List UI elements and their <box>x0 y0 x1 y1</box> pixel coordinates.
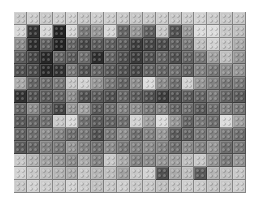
stud-icon <box>21 14 24 17</box>
stud-icon <box>227 130 230 133</box>
stud-icon <box>80 182 83 185</box>
brick-cell <box>207 141 220 154</box>
stud-icon <box>188 97 191 100</box>
stud-icon <box>124 66 127 69</box>
stud-icon <box>201 130 204 133</box>
stud-icon <box>93 79 96 82</box>
stud-icon <box>163 19 166 22</box>
stud-icon <box>235 79 238 82</box>
brick-cell <box>40 115 53 128</box>
stud-icon <box>111 84 114 87</box>
stud-icon <box>158 130 161 133</box>
stud-icon <box>214 187 217 190</box>
stud-icon <box>132 117 135 120</box>
stud-icon <box>222 84 225 87</box>
stud-icon <box>16 135 19 138</box>
brick-cell <box>220 77 233 90</box>
stud-icon <box>106 169 109 172</box>
stud-icon <box>209 19 212 22</box>
stud-icon <box>209 130 212 133</box>
stud-icon <box>72 58 75 61</box>
stud-icon <box>98 14 101 17</box>
stud-icon <box>85 45 88 48</box>
stud-icon <box>55 182 58 185</box>
stud-icon <box>16 169 19 172</box>
brick-cell <box>40 141 53 154</box>
stud-icon <box>227 40 230 43</box>
brick-cell <box>207 64 220 77</box>
brick-cell <box>27 115 40 128</box>
stud-icon <box>214 32 217 35</box>
stud-icon <box>98 182 101 185</box>
brick-cell <box>66 180 79 193</box>
brick-cell <box>156 25 169 38</box>
stud-icon <box>227 84 230 87</box>
stud-icon <box>176 187 179 190</box>
stud-icon <box>227 19 230 22</box>
brick-cell <box>207 25 220 38</box>
stud-icon <box>119 117 122 120</box>
stud-icon <box>68 71 71 74</box>
stud-icon <box>68 169 71 172</box>
stud-icon <box>93 105 96 108</box>
stud-icon <box>47 97 50 100</box>
brick-cell <box>53 154 66 167</box>
stud-icon <box>163 182 166 185</box>
stud-icon <box>158 105 161 108</box>
stud-icon <box>209 122 212 125</box>
stud-icon <box>184 156 187 159</box>
stud-icon <box>227 14 230 17</box>
stud-icon <box>21 117 24 120</box>
stud-icon <box>184 53 187 56</box>
stud-icon <box>137 109 140 112</box>
stud-icon <box>176 45 179 48</box>
stud-icon <box>119 84 122 87</box>
stud-icon <box>176 97 179 100</box>
stud-icon <box>93 161 96 164</box>
stud-icon <box>93 109 96 112</box>
stud-icon <box>29 135 32 138</box>
stud-icon <box>29 161 32 164</box>
stud-icon <box>235 135 238 138</box>
stud-icon <box>188 187 191 190</box>
stud-icon <box>29 79 32 82</box>
stud-icon <box>29 92 32 95</box>
stud-icon <box>80 156 83 159</box>
stud-icon <box>222 187 225 190</box>
stud-icon <box>171 45 174 48</box>
stud-icon <box>158 187 161 190</box>
stud-icon <box>68 109 71 112</box>
stud-icon <box>42 109 45 112</box>
stud-icon <box>42 32 45 35</box>
brick-cell <box>14 103 27 116</box>
brick-cell <box>14 77 27 90</box>
stud-icon <box>119 58 122 61</box>
stud-icon <box>85 105 88 108</box>
stud-icon <box>227 169 230 172</box>
stud-icon <box>201 135 204 138</box>
stud-icon <box>119 32 122 35</box>
stud-icon <box>214 109 217 112</box>
stud-icon <box>201 92 204 95</box>
stud-icon <box>171 156 174 159</box>
stud-icon <box>171 58 174 61</box>
stud-icon <box>98 156 101 159</box>
stud-icon <box>21 79 24 82</box>
stud-icon <box>111 14 114 17</box>
stud-icon <box>119 19 122 22</box>
stud-icon <box>222 182 225 185</box>
brick-cell <box>14 64 27 77</box>
brick-cell <box>182 64 195 77</box>
stud-icon <box>158 109 161 112</box>
stud-icon <box>93 71 96 74</box>
stud-icon <box>132 79 135 82</box>
stud-icon <box>214 122 217 125</box>
stud-icon <box>106 53 109 56</box>
stud-icon <box>119 122 122 125</box>
stud-icon <box>16 182 19 185</box>
stud-icon <box>34 84 37 87</box>
stud-icon <box>145 92 148 95</box>
stud-icon <box>150 130 153 133</box>
brick-cell <box>117 141 130 154</box>
stud-icon <box>235 130 238 133</box>
